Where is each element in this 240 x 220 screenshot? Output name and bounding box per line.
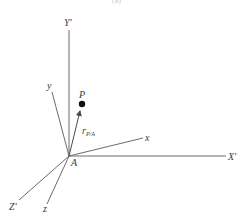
- z-prime-axis: [19, 156, 69, 200]
- y-axis: [52, 92, 69, 156]
- x-label: x: [144, 132, 150, 143]
- position-vector-label: rP/A: [82, 125, 95, 137]
- z-prime-label: Z': [9, 201, 18, 212]
- point-p-dot: [79, 101, 85, 107]
- y-label: y: [46, 80, 52, 91]
- coordinate-frame-diagram: (a) Y' X' Z' x y z A P rP/A: [0, 0, 240, 220]
- point-p-label: P: [78, 89, 85, 100]
- z-axis: [47, 156, 69, 204]
- y-prime-label: Y': [64, 17, 73, 28]
- z-label: z: [42, 203, 47, 214]
- position-vector-arrow: [69, 111, 80, 156]
- position-vector-subscript: P/A: [85, 131, 95, 137]
- x-prime-label: X': [227, 151, 237, 162]
- origin-a-label: A: [70, 157, 78, 168]
- figure-caption-partial: (a): [112, 0, 121, 5]
- x-axis: [69, 138, 143, 156]
